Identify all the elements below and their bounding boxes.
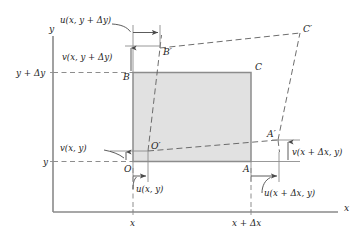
- x-axis-label: x: [344, 202, 350, 213]
- vertex-label-A-prime: A′: [266, 128, 277, 139]
- vertex-label-C-prime: C′: [303, 23, 313, 34]
- vertex-label-B: B: [122, 71, 130, 82]
- vertex-label-C: C: [255, 61, 262, 72]
- dimension-v-top-group: v(x, y + Δy): [62, 46, 160, 71]
- label-v-x-plus-dx-y: v(x + Δx, y): [292, 147, 342, 157]
- vertex-label-A: A: [242, 163, 250, 174]
- tick-label-y-plus-dy: y + Δy: [15, 68, 46, 78]
- dimension-u-top-group: u(x, y + Δy): [60, 15, 160, 73]
- dimension-u-right-group: u(x + Δx, y): [251, 152, 315, 198]
- strain-deformation-figure: y x: [0, 0, 364, 234]
- vertex-label-B-prime: B′: [162, 46, 173, 57]
- tick-label-x-plus-dx: x + Δx: [232, 218, 261, 228]
- label-u-x-y-plus-dy: u(x, y + Δy): [60, 15, 111, 25]
- deformed-edge-right: [278, 33, 300, 140]
- leader-u-top: [112, 24, 131, 32]
- deformed-edge-right-extension: [278, 140, 280, 152]
- y-axis-label: y: [48, 23, 55, 34]
- deformed-edge-top: [160, 33, 300, 48]
- dimension-v-right-group: v(x + Δx, y): [251, 140, 342, 162]
- vertex-label-O: O: [124, 163, 132, 174]
- tick-label-y: y: [42, 157, 49, 167]
- figure-canvas: y x: [0, 0, 364, 234]
- vertex-label-O-prime: O′: [151, 140, 162, 151]
- label-u-x-y: u(x, y): [136, 184, 163, 194]
- label-v-x-y: v(x, y): [60, 143, 87, 153]
- tick-label-x: x: [130, 218, 135, 228]
- label-u-x-plus-dx-y: u(x + Δx, y): [264, 188, 315, 198]
- label-v-x-y-plus-dy: v(x, y + Δy): [62, 52, 112, 62]
